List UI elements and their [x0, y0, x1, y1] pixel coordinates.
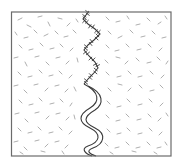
diagram-canvas: [0, 0, 183, 166]
fiber-crack-diagram: [0, 0, 183, 166]
